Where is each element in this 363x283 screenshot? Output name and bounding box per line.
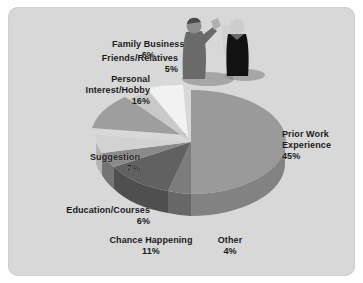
standing-figure: [222, 19, 249, 76]
standing-figure-head: [230, 19, 244, 33]
slice-label-chance-happening: Chance Happening 11%: [96, 235, 206, 257]
slice-label-education-pct: 6%: [18, 216, 150, 227]
slice-label-other-text: Other: [218, 235, 243, 245]
slice-label-education-text: Education/Courses: [66, 205, 150, 215]
slice-label-personal-line2: Interest/Hobby: [28, 85, 150, 96]
slice-label-prior-work-experience: Prior Work Experience 45%: [282, 129, 354, 162]
slice-side-other: [168, 191, 191, 216]
screenshot-root: Family Business 6% Friends/Relatives 5% …: [0, 0, 363, 283]
chart-frame: Family Business 6% Friends/Relatives 5% …: [8, 7, 355, 276]
pie-chart: Family Business 6% Friends/Relatives 5% …: [8, 7, 355, 276]
slice-label-prior-line2: Experience: [282, 140, 354, 151]
slice-label-suggestion-text: Suggestion: [90, 152, 140, 162]
slice-label-other-pct: 4%: [204, 246, 256, 257]
slice-label-personal-line1: Personal: [111, 74, 150, 84]
slice-label-prior-line1: Prior Work: [282, 129, 329, 139]
slice-label-personal-interest-hobby: Personal Interest/Hobby 16%: [28, 74, 150, 107]
slice-label-friends-relatives-text: Friends/Relatives: [102, 53, 178, 63]
slice-label-personal-pct: 16%: [28, 96, 150, 107]
businessmen-illustration: [182, 18, 265, 86]
slice-label-chance-text: Chance Happening: [109, 235, 192, 245]
standing-figure-body: [226, 34, 248, 76]
slice-label-prior-pct: 45%: [282, 151, 354, 162]
slice-label-chance-pct: 11%: [96, 246, 206, 257]
gesturing-figure: [183, 18, 221, 79]
slice-label-friends-relatives: Friends/Relatives 5%: [60, 53, 178, 75]
slice-label-education-courses: Education/Courses 6%: [18, 205, 150, 227]
slice-label-other: Other 4%: [204, 235, 256, 257]
slice-label-family-business-text: Family Business: [112, 39, 185, 49]
slice-label-suggestion-pct: 7%: [28, 163, 140, 174]
slice-label-suggestion: Suggestion 7%: [28, 152, 140, 174]
